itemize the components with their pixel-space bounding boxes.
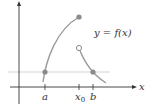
tick-label-x0: x0 xyxy=(75,91,85,104)
tick-label-a: a xyxy=(42,91,48,102)
curve-right-branch xyxy=(79,48,106,83)
point-at-a xyxy=(42,69,47,74)
function-graph: y = f(x) x a x0 b xyxy=(0,0,146,108)
tick-label-b: b xyxy=(90,91,96,102)
point-jump-top xyxy=(76,14,81,19)
point-at-b xyxy=(90,69,95,74)
function-label: y = f(x) xyxy=(93,27,132,38)
x-axis-arrow-icon xyxy=(132,85,137,89)
x-axis-label: x xyxy=(139,81,145,92)
open-point-x0 xyxy=(76,45,81,50)
y-axis-arrow-icon xyxy=(17,1,21,6)
